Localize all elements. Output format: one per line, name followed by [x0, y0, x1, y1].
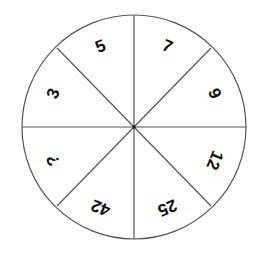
- center-dot: [132, 125, 136, 129]
- number-wheel-puzzle: 79122542?35: [0, 0, 257, 259]
